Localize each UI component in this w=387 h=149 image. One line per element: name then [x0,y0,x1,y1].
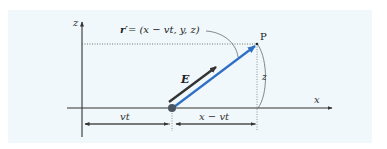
svg-text:r′= (x − vt, y, z): r′= (x − vt, y, z) [120,24,200,35]
moving-charge [168,104,176,112]
x-axis-label: x [314,94,320,105]
z-axis-label: z [72,17,79,28]
r-prime-equation: r′= (x − vt, y, z) [120,24,200,35]
relativistic-field-diagram: z x E P r′= (x − vt, y, z) [0,0,387,149]
e-field-label: E [180,73,190,86]
point-p-label: P [260,31,267,42]
r-prime-components: = (x − vt, y, z) [128,24,200,35]
point-p-marker [256,43,259,46]
z-height-label: z [261,72,267,82]
vt-label: vt [120,111,131,122]
x-minus-vt-label: x − vt [199,111,230,122]
